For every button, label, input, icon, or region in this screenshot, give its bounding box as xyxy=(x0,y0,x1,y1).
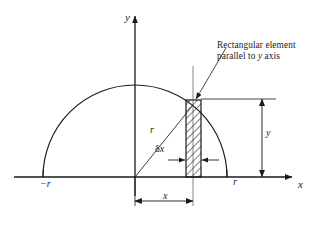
callout-line-2-prefix: parallel to xyxy=(217,51,258,61)
left-radius-label: −r xyxy=(40,178,51,190)
height-dimension-label: y xyxy=(266,127,270,139)
x-axis-label: x xyxy=(298,178,303,191)
callout-text-block: Rectangular element parallel to y axis xyxy=(217,40,315,62)
callout-line-2: parallel to y axis xyxy=(217,51,315,62)
rectangular-element xyxy=(186,100,201,177)
right-radius-label: r xyxy=(233,176,237,188)
element-width-label: δx xyxy=(155,143,164,155)
semicircle-diagram xyxy=(0,0,318,233)
callout-line-1: Rectangular element xyxy=(217,40,315,51)
figure-container: y x −r r r y x δx Rectangular element pa… xyxy=(0,0,318,233)
radius-label: r xyxy=(150,124,154,136)
horizontal-dimension-label: x xyxy=(163,190,167,202)
delta-variable: x xyxy=(160,143,164,154)
y-axis-label: y xyxy=(125,11,130,24)
callout-line-2-suffix: axis xyxy=(262,51,280,61)
radius-line xyxy=(135,105,193,177)
